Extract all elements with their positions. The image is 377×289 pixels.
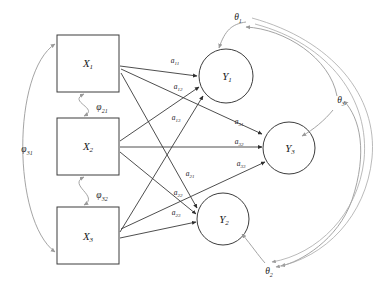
endogenous-node-y2[interactable]: Y2 <box>197 193 249 245</box>
exogenous-node-x3[interactable]: X3 <box>57 207 119 264</box>
exogenous-node-x2[interactable]: X2 <box>57 118 119 175</box>
endogenous-node-y3[interactable]: Y3 <box>263 122 315 174</box>
sem-path-diagram: X1 X2 X3 Y1 <box>0 0 377 289</box>
edge-label-a33: a33 <box>237 159 246 169</box>
covariance-label-phi31: φ31 <box>21 144 32 156</box>
covariance-theta1-left <box>219 22 246 48</box>
path-a12 <box>120 87 199 141</box>
covariance-phi21 <box>79 94 89 116</box>
exogenous-node-x1[interactable]: X1 <box>57 35 119 92</box>
endogenous-node-y1[interactable]: Y1 <box>199 49 253 103</box>
edge-label-a22: a22 <box>174 188 183 198</box>
path-a13 <box>120 96 203 232</box>
covariance-label-theta1: θ1 <box>234 12 242 24</box>
path-a21 <box>121 73 197 208</box>
edge-label-a12: a12 <box>174 82 183 92</box>
covariance-phi31 <box>23 44 55 252</box>
path-diagram-canvas: X1 X2 X3 Y1 <box>0 0 377 289</box>
covariance-label-theta2: θ2 <box>265 266 273 278</box>
edge-label-a23: a23 <box>172 208 181 218</box>
edge-label-a11: a11 <box>171 56 179 66</box>
path-a22 <box>120 152 196 214</box>
edge-label-a31: a31 <box>235 117 244 127</box>
edge-label-a21: a21 <box>186 169 195 179</box>
path-a11 <box>120 66 197 76</box>
covariance-label-phi21: φ21 <box>96 102 107 114</box>
edge-label-a32: a32 <box>235 137 244 147</box>
covariance-theta2-into-y2 <box>242 234 265 263</box>
covariance-phi32 <box>79 177 89 205</box>
covariance-label-theta3: θ3 <box>337 95 345 107</box>
covariance-label-phi32: φ32 <box>96 190 107 202</box>
edge-label-a13: a13 <box>172 113 181 123</box>
